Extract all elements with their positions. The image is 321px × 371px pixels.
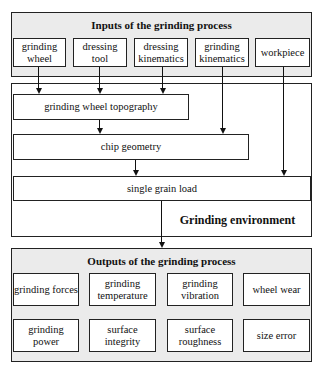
stage-grinding-wheel-topography: grinding wheel topography [13, 94, 189, 120]
environment-label: Grinding environment [175, 213, 300, 228]
output-surface-roughness: surface roughness [167, 319, 233, 352]
connector-topography-chip [99, 120, 100, 128]
input-dressing-kinematics: dressing kinematics [134, 38, 188, 67]
stage-single-grain-load: single grain load [13, 176, 311, 201]
arrow-head-icon [133, 170, 139, 176]
arrow-head-icon [160, 88, 166, 94]
connector-chip-load [135, 160, 136, 170]
connector-load-outputs [161, 201, 162, 242]
arrow-head-icon [220, 128, 226, 134]
connector-wheel [38, 67, 39, 88]
output-surface-integrity: surface integrity [89, 319, 156, 352]
arrow-head-icon [97, 128, 103, 134]
output-size-error: size error [243, 319, 310, 352]
connector-grinding-kinematics [222, 67, 223, 128]
stage-chip-geometry: chip geometry [13, 134, 249, 160]
arrow-head-icon [36, 88, 42, 94]
connector-dressing-kinematics [162, 67, 163, 88]
input-dressing-tool: dressing tool [73, 38, 127, 67]
arrow-head-icon [97, 88, 103, 94]
output-grinding-vibration: grinding vibration [167, 273, 233, 306]
connector-dressing-tool [99, 67, 100, 88]
output-grinding-forces: grinding forces [13, 273, 79, 306]
connector-workpiece [283, 67, 284, 170]
output-grinding-temperature: grinding temperature [89, 273, 156, 306]
input-workpiece: workpiece [255, 38, 310, 67]
input-grinding-wheel: grinding wheel [13, 38, 66, 67]
outputs-title: Outputs of the grinding process [12, 255, 311, 267]
input-grinding-kinematics: grinding kinematics [195, 38, 249, 67]
output-grinding-power: grinding power [13, 319, 79, 352]
arrow-head-icon [281, 170, 287, 176]
inputs-title: Inputs of the grinding process [12, 19, 311, 31]
output-wheel-wear: wheel wear [243, 273, 310, 306]
